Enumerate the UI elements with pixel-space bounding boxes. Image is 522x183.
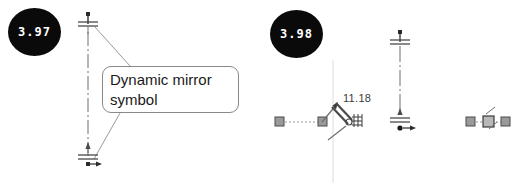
step-badge-397-label: 3.97 [18,25,51,39]
vertical-centerline-right[interactable] [390,30,416,131]
step-badge-398-label: 3.98 [280,27,313,41]
grid-cursor-icon [352,114,362,127]
step-badge-398: 3.98 [270,10,323,58]
mirror-symbol-bottom[interactable] [78,142,102,167]
sketch-line-right[interactable] [466,107,510,129]
leader-line-bottom [94,113,120,159]
leader-line-top [95,27,130,66]
step-badge-397: 3.97 [8,8,61,56]
sketch-line-left[interactable] [275,117,327,126]
dimension-label-1118: 11.18 [343,92,371,104]
dynamic-mirror-callout-text: Dynamic mirror symbol [110,70,232,110]
cad-figure-canvas [0,0,522,183]
mirror-symbol-top[interactable] [78,12,98,34]
dynamic-mirror-callout: Dynamic mirror symbol [102,66,239,113]
